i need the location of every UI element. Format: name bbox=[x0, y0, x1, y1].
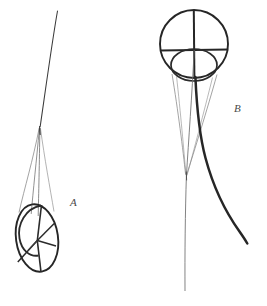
figure-svg bbox=[0, 0, 267, 306]
drawing-canvas: A B bbox=[0, 0, 267, 306]
panel-b-vertical-diameter bbox=[194, 10, 195, 78]
panel-b-label: B bbox=[234, 102, 241, 114]
panel-a-label: A bbox=[70, 196, 77, 208]
panel-a-apex-nib bbox=[40, 127, 41, 135]
